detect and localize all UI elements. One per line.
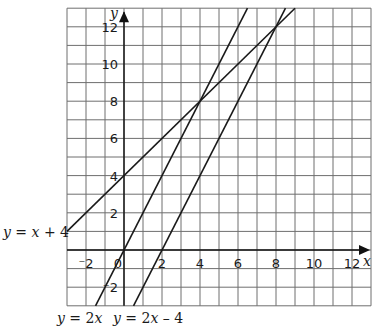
x-tick-label: 2: [158, 256, 166, 271]
y-axis-label: y: [109, 5, 119, 21]
line-label-y-eq-2x-minus-4: y = 2x – 4: [112, 310, 183, 326]
x-tick-label: 8: [272, 256, 280, 271]
x-tick-label: ⁻2: [78, 256, 93, 271]
x-tick-label: 0: [114, 256, 122, 271]
coordinate-graph: ⁻2024681012⁻224681012 y x y = x + 4 y = …: [0, 0, 381, 330]
line-label-y-eq-2x: y = 2x: [56, 310, 102, 326]
y-tick-label: 8: [110, 94, 118, 109]
x-tick-label: 6: [234, 256, 242, 271]
grid: [67, 8, 371, 306]
y-tick-label: ⁻2: [103, 280, 118, 295]
x-axis-label: x: [363, 253, 371, 269]
x-tick-label: 10: [306, 256, 323, 271]
y-tick-label: 12: [101, 20, 118, 35]
y-axis-arrow-icon: [119, 11, 129, 22]
x-tick-label: 4: [196, 256, 204, 271]
y-tick-label: 2: [110, 206, 118, 221]
y-tick-label: 6: [110, 131, 118, 146]
line-label-y-eq-x-plus-4: y = x + 4: [2, 224, 69, 240]
y-tick-label: 10: [101, 57, 118, 72]
x-tick-label: 12: [344, 256, 361, 271]
y-tick-label: 4: [110, 169, 118, 184]
